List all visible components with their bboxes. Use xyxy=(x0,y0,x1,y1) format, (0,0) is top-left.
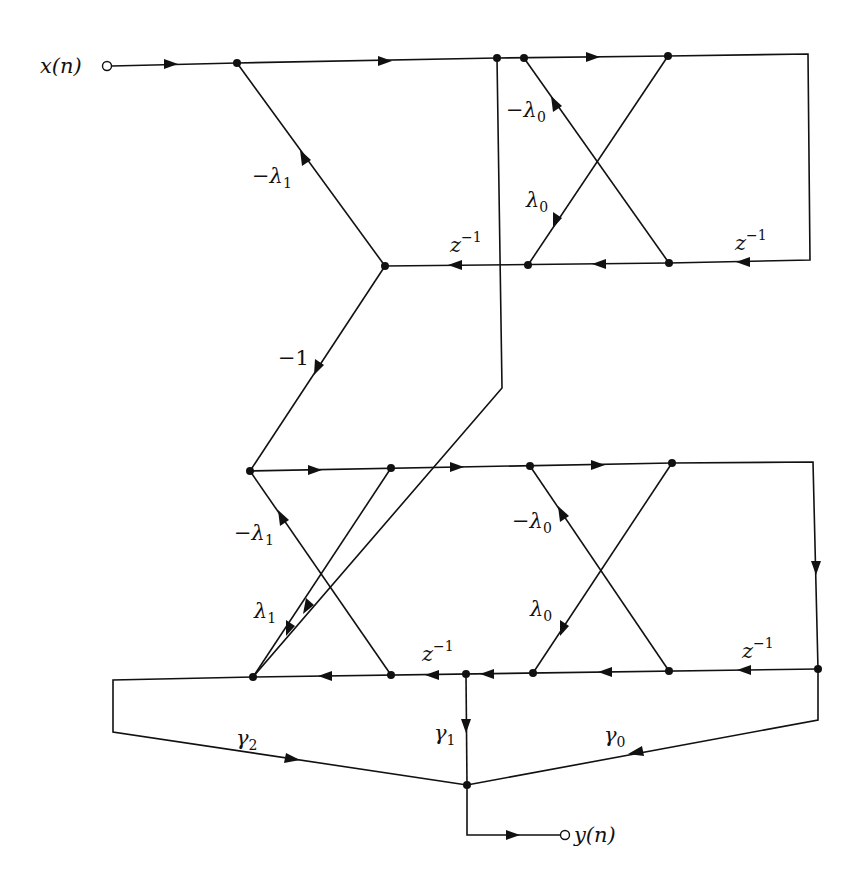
label-top-z-left: z−1 xyxy=(449,229,482,257)
node xyxy=(529,669,537,677)
bottom-cross-lambda0 xyxy=(533,463,672,673)
label-bot-neg-lambda0: −λ0 xyxy=(512,509,552,536)
label-bot-lambda0: λ0 xyxy=(529,597,552,624)
arrow-down-left xyxy=(560,620,569,636)
node xyxy=(668,459,676,467)
arrow-left xyxy=(736,257,750,267)
arrow-right xyxy=(164,59,178,69)
gamma0-path xyxy=(467,669,818,785)
top-cross-lambda0 xyxy=(528,56,668,265)
node xyxy=(665,259,673,267)
arrow-up-left xyxy=(278,510,289,526)
arrow-right xyxy=(591,460,605,470)
arrow-up-left xyxy=(300,150,311,166)
label-bot-lambda1: λ1 xyxy=(253,599,276,626)
lattice-ladder-diagram: x(n) y(n) −λ1 −λ0 λ0 z−1 z−1 −1 −λ1 λ1 −… xyxy=(0,0,860,890)
node xyxy=(664,52,672,60)
label-gamma1: γ1 xyxy=(434,721,455,748)
output-terminal xyxy=(561,831,570,840)
label-gamma2: γ2 xyxy=(236,726,257,753)
arrow-down-left xyxy=(553,212,562,228)
ladder-section xyxy=(113,669,818,840)
bottom-cross-neg-lambda1 xyxy=(250,471,391,675)
gamma2-path xyxy=(113,677,467,785)
label-gamma0: γ0 xyxy=(604,723,625,750)
output-label: y(n) xyxy=(573,823,616,847)
arrow-left xyxy=(425,670,439,680)
arrow-right xyxy=(506,830,520,840)
node xyxy=(520,54,528,62)
node xyxy=(526,462,534,470)
label-minus-one: −1 xyxy=(278,346,309,370)
arrow-left xyxy=(598,667,612,677)
label-bot-neg-lambda1: −λ1 xyxy=(234,521,274,548)
input-terminal xyxy=(103,62,112,71)
bottom-lattice xyxy=(246,459,822,681)
arrow-left xyxy=(318,671,332,681)
arrow-right xyxy=(378,56,392,66)
arrow-left xyxy=(592,259,606,269)
label-top-z-right: z−1 xyxy=(734,227,767,255)
node xyxy=(387,671,395,679)
arrow-right xyxy=(586,52,600,62)
arrow-down-right xyxy=(284,753,300,763)
label-top-neg-lambda1: −λ1 xyxy=(252,164,292,191)
node xyxy=(524,261,532,269)
arrow-right xyxy=(308,465,322,475)
bottom-right-loop xyxy=(672,462,818,669)
arrow-left xyxy=(480,669,494,679)
arrow-up-left xyxy=(558,506,569,522)
node xyxy=(665,667,673,675)
node xyxy=(246,467,254,475)
label-bot-z-left: z−1 xyxy=(421,638,454,666)
top-forward-line xyxy=(237,58,497,63)
sum-node xyxy=(463,781,471,789)
top-cross-neg-lambda0 xyxy=(524,58,669,263)
output-path xyxy=(467,785,560,835)
label-top-neg-lambda0: −λ0 xyxy=(506,98,546,125)
arrow-right xyxy=(450,462,464,472)
arrow-left xyxy=(737,665,751,675)
input-label: x(n) xyxy=(40,54,82,78)
arrow-down xyxy=(811,561,821,575)
label-top-lambda0: λ0 xyxy=(525,188,548,215)
arrow-left xyxy=(448,260,462,270)
labels: x(n) y(n) −λ1 −λ0 λ0 z−1 z−1 −1 −λ1 λ1 −… xyxy=(40,54,774,847)
label-bot-z-right: z−1 xyxy=(741,635,774,663)
node xyxy=(387,464,395,472)
arrow-down xyxy=(461,719,471,733)
node xyxy=(233,59,241,67)
bottom-cross-neg-lambda0 xyxy=(530,466,669,671)
